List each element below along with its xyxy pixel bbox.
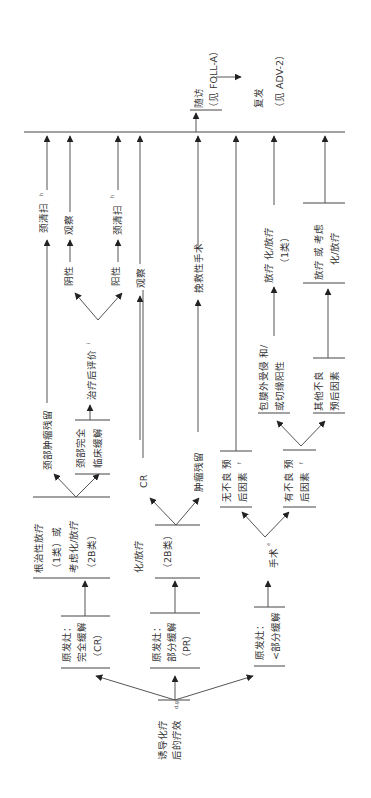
treatment-pr-line1: 化/放疗	[133, 540, 144, 573]
other-action-line2: 化/放疗	[329, 232, 340, 265]
no-adverse-box: 无不良 预 后因素 f	[220, 451, 252, 507]
other-line1: 其他不良	[313, 371, 324, 411]
response-ltpr-line1: 原发灶：	[254, 620, 265, 660]
treatment-surgery: 手术 e	[265, 543, 279, 568]
response-pr: 原发灶： 部分缓解 （PR）	[150, 613, 200, 668]
neck-dissection-1-sup: h	[38, 193, 44, 196]
observe-negative: 观察	[63, 215, 74, 235]
surgery-sup: e	[265, 543, 271, 546]
arrow-start-cr	[96, 676, 175, 700]
response-lt-pr: 原发灶： <部分缓解	[254, 607, 285, 666]
other-adverse-box: 其他不良 预后因素	[313, 358, 345, 413]
neck-dissection-2: 颈清扫	[112, 205, 123, 235]
ece-line1: 包膜外受侵 和/	[258, 344, 269, 411]
followup-box: 随访 （见 FOLL-A）	[190, 46, 222, 112]
neck-complete-box: 颈部完全 临床缓解	[75, 420, 110, 474]
pr-observe: 观察	[135, 268, 146, 288]
arrow-cr-complete	[76, 474, 99, 497]
negative-label: 阴性	[63, 266, 74, 286]
response-cr: 原发灶： 完全缓解 （CR）	[61, 616, 110, 668]
treatment-cr: 根治性放疗 （1类）或 考虑化/放疗 （2B类）	[33, 497, 110, 578]
arrow-cr-residual	[54, 474, 76, 497]
no-adverse-line2: 后因素	[237, 472, 248, 502]
arrow-start-ltpr	[175, 676, 253, 700]
ece-box: 包膜外受侵 和/ 或切缘阳性	[258, 344, 290, 413]
treatment-pr: 化/放疗 （2B类）	[133, 525, 200, 578]
followup-label: 随访	[193, 88, 204, 108]
positive-label: 阳性	[110, 266, 121, 286]
other-action-line1: 放疗 或 考虑	[313, 224, 324, 280]
no-adverse-sup: f	[236, 462, 242, 464]
response-cr-line2: 完全缓解	[76, 622, 87, 662]
adverse-sup: f	[298, 462, 304, 464]
neck-dissection-1: 颈清扫	[38, 203, 49, 233]
response-cr-line1: 原发灶：	[61, 622, 72, 662]
treatment-cr-line3: 考虑化/放疗	[68, 520, 79, 573]
start-sup: d,g	[173, 701, 180, 709]
start-label-2: 后的疗效	[171, 720, 182, 760]
adverse-line2: 后因素	[299, 472, 310, 502]
pr-cr-label: CR	[138, 474, 149, 488]
adverse-line1: 有不良 预	[283, 459, 294, 502]
neck-dissection-2-sup: h	[109, 195, 115, 198]
start-label-1: 诱导化疗	[157, 720, 168, 760]
neck-complete-line2: 临床缓解	[92, 428, 103, 468]
start-node: 诱导化疗 后的疗效 d,g	[157, 700, 190, 760]
no-adverse-line1: 无不良 预	[221, 459, 232, 502]
recurrence-ref: （见 ADV-2）	[274, 50, 285, 112]
response-pr-line2: 部分缓解	[166, 622, 177, 662]
response-ltpr-line2: <部分缓解	[270, 612, 281, 660]
treatment-cr-line4: （2B类）	[86, 530, 97, 573]
followup-ref: （见 FOLL-A）	[208, 46, 219, 112]
flowchart: 诱导化疗 后的疗效 d,g 原发灶： 完全缓解 （CR） 原发灶： 部分缓解 （…	[0, 0, 371, 798]
post-treatment-eval: 治疗后评价	[86, 350, 97, 400]
ece-line2: 或切缘阳性	[274, 361, 285, 411]
response-pr-line1: 原发灶：	[151, 622, 162, 662]
ece-action-line1: 放疗 化/放疗	[263, 227, 274, 283]
treatment-cr-line1: 根治性放疗	[33, 523, 44, 573]
other-line2: 预后因素	[329, 371, 340, 411]
other-action-box: 放疗 或 考虑 化/放疗	[303, 203, 345, 283]
pr-residual-label: 肿瘤残留	[193, 452, 204, 492]
response-pr-line3: （PR）	[181, 630, 192, 662]
recurrence-box: 复发 （见 ADV-2）	[253, 50, 285, 112]
treatment-pr-line2: （2B类）	[162, 530, 173, 573]
ece-action-line2: （1类）	[279, 232, 290, 268]
post-eval-sup: i	[85, 343, 91, 344]
adverse-box: 有不良 预 后因素 f	[283, 450, 316, 507]
neck-residual-label: 颈部肿瘤残留	[42, 410, 53, 470]
surgery-label: 手术	[268, 548, 279, 568]
response-cr-line3: （CR）	[92, 629, 103, 662]
treatment-cr-line2: （1类）或	[51, 527, 62, 573]
recurrence-label: 复发	[253, 88, 264, 108]
salvage-surgery: 挽救性手术	[193, 243, 204, 293]
neck-complete-line1: 颈部完全	[75, 428, 86, 468]
